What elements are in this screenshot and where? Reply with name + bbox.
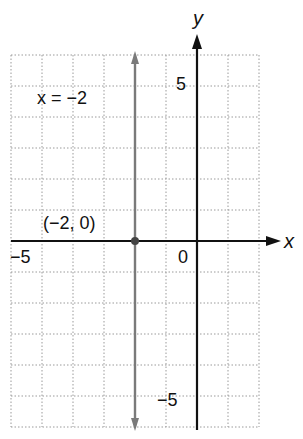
tick-label-y-neg5: −5	[157, 390, 178, 410]
y-axis	[192, 34, 202, 430]
line-up-arrow-icon	[131, 51, 139, 64]
tick-label-x-neg5: −5	[10, 247, 31, 267]
x-axis-label: x	[283, 230, 295, 252]
equation-label: x = −2	[37, 88, 87, 108]
x-axis	[11, 236, 281, 246]
y-axis-arrow-icon	[192, 34, 202, 49]
line-down-arrow-icon	[131, 418, 139, 431]
x-axis-arrow-icon	[266, 236, 281, 246]
y-axis-label: y	[191, 7, 204, 29]
point-neg2-0	[131, 237, 139, 245]
point-label: (−2, 0)	[43, 213, 96, 233]
tick-label-origin: 0	[178, 247, 188, 267]
coordinate-plane: y x x = −2 (−2, 0) −5 0 5 −5	[0, 0, 303, 439]
tick-label-y-pos5: 5	[176, 74, 186, 94]
